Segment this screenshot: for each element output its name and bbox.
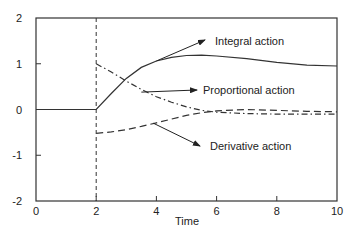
x-tick-label: 6: [214, 205, 220, 217]
series-line-derivative-action: [96, 110, 337, 134]
annotation-arrow: [141, 90, 197, 92]
y-tick-label: 1: [16, 58, 22, 70]
y-tick-label: -1: [12, 149, 22, 161]
annotation-label: Integral action: [215, 35, 284, 47]
x-tick-label: 0: [33, 205, 39, 217]
y-tick-label: 2: [16, 12, 22, 24]
y-tick-label: 0: [16, 104, 22, 116]
annotation-label: Derivative action: [210, 140, 291, 152]
x-tick-label: 4: [153, 205, 159, 217]
x-tick-label: 8: [274, 205, 280, 217]
x-tick-label: 10: [331, 205, 343, 217]
annotation-arrow: [156, 40, 205, 61]
series-layer: [36, 18, 337, 201]
x-axis-label: Time: [175, 215, 199, 227]
annotation-layer: Integral actionProportional actionDeriva…: [141, 35, 294, 152]
x-tick-label: 2: [93, 205, 99, 217]
y-tick-label: -2: [12, 195, 22, 207]
series-line-integral-action: [36, 55, 337, 109]
annotation-label: Proportional action: [203, 84, 295, 96]
chart: 0246810-2-1012 Integral actionProportion…: [0, 0, 358, 237]
annotation-arrow: [153, 123, 200, 146]
